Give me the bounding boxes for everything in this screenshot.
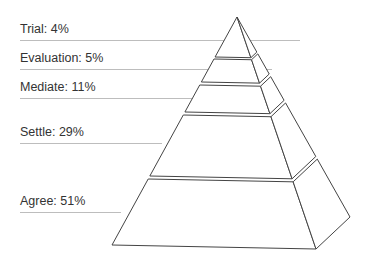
pyramid-front-face-settle	[150, 115, 292, 179]
pyramid-front-face-mediate	[185, 85, 270, 114]
pyramid-level-trial	[215, 17, 257, 58]
pyramid-graphic	[0, 0, 372, 263]
pyramid-front-face-evaluation	[201, 59, 259, 83]
pyramid-level-settle	[150, 103, 316, 179]
pyramid-front-face-agree	[112, 179, 316, 249]
pyramid-level-evaluation	[201, 54, 269, 83]
